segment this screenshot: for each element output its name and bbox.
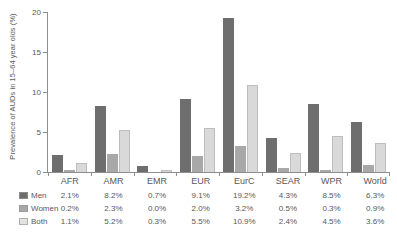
legend-swatch-both-icon (19, 218, 28, 225)
y-axis-tick-label: 10 (32, 88, 41, 97)
y-axis-tick-mark (43, 12, 47, 13)
y-axis-tick-label: 20 (32, 8, 41, 17)
table-body: Men2.1%8.2%0.7%9.1%19.2%4.3%8.5%6.3%Wome… (0, 189, 397, 228)
x-axis-label-eurc: EurC (223, 176, 267, 186)
table-row-cells: 0.2%2.3%0.0%2.0%3.2%0.5%0.3%0.9% (48, 204, 397, 213)
bar-group (262, 12, 305, 172)
bar-both-eurc (247, 85, 258, 172)
legend-label-men: Men (31, 191, 47, 200)
bar-women-wpr (320, 170, 331, 172)
bar-women-world (363, 165, 374, 172)
table-cell-both-afr: 1.1% (48, 217, 92, 226)
bar-both-amr (119, 130, 130, 172)
legend-item-women: Women (0, 204, 48, 213)
bar-group (305, 12, 348, 172)
table-cell-both-wpr: 4.5% (310, 217, 354, 226)
table-cell-men-eur: 9.1% (179, 191, 223, 200)
table-cell-men-amr: 8.2% (92, 191, 136, 200)
bar-both-wpr (332, 136, 343, 172)
table-cell-both-emr: 0.3% (135, 217, 179, 226)
table-cell-women-eurc: 3.2% (223, 204, 267, 213)
table-cell-men-eurc: 19.2% (223, 191, 267, 200)
bar-women-afr (64, 170, 75, 172)
chart-figure: Prevalence of AUDs in 15–64 year olds (%… (0, 0, 397, 244)
table-cell-women-afr: 0.2% (48, 204, 92, 213)
table-cell-men-sear: 4.3% (266, 191, 310, 200)
bar-both-afr (76, 163, 87, 172)
table-row: Men2.1%8.2%0.7%9.1%19.2%4.3%8.5%6.3% (0, 189, 397, 202)
table-cell-men-afr: 2.1% (48, 191, 92, 200)
legend-item-both: Both (0, 217, 48, 226)
table-cell-both-amr: 5.2% (92, 217, 136, 226)
bar-both-world (375, 143, 386, 172)
y-axis-tick-mark (43, 132, 47, 133)
table-row-cells: 2.1%8.2%0.7%9.1%19.2%4.3%8.5%6.3% (48, 191, 397, 200)
bar-men-world (351, 122, 362, 172)
bar-groups (48, 12, 390, 172)
bar-men-amr (95, 106, 106, 172)
table-cell-both-eurc: 10.9% (223, 217, 267, 226)
table-cell-women-amr: 2.3% (92, 204, 136, 213)
x-axis-label-sear: SEAR (266, 176, 310, 186)
bar-group (91, 12, 134, 172)
table-cell-women-emr: 0.0% (135, 204, 179, 213)
bar-group (219, 12, 262, 172)
x-axis-label-amr: AMR (92, 176, 136, 186)
legend-item-men: Men (0, 191, 48, 200)
bar-women-eur (192, 156, 203, 172)
table-cell-women-sear: 0.5% (266, 204, 310, 213)
bar-women-eurc (235, 146, 246, 172)
bar-group (347, 12, 390, 172)
legend-label-both: Both (31, 217, 47, 226)
bar-both-emr (161, 170, 172, 172)
y-axis-tick-label: 15 (32, 48, 41, 57)
bar-men-emr (137, 166, 148, 172)
y-axis-tick-mark (43, 52, 47, 53)
data-table: AFRAMREMREUREurCSEARWPRWorld Men2.1%8.2%… (0, 174, 397, 244)
x-axis-label-afr: AFR (48, 176, 92, 186)
table-cell-women-eur: 2.0% (179, 204, 223, 213)
table-cell-men-wpr: 8.5% (310, 191, 354, 200)
table-cell-both-world: 3.6% (353, 217, 397, 226)
y-axis-tick-label: 5 (37, 128, 41, 137)
y-axis-tick-mark (43, 172, 47, 173)
y-axis-title-container: Prevalence of AUDs in 15–64 year olds (%… (0, 0, 16, 180)
bar-men-sear (266, 138, 277, 172)
table-cell-men-emr: 0.7% (135, 191, 179, 200)
bar-men-wpr (308, 104, 319, 172)
legend-swatch-women-icon (19, 205, 28, 212)
x-axis-label-eur: EUR (179, 176, 223, 186)
x-axis-labels: AFRAMREMREUREurCSEARWPRWorld (48, 176, 397, 186)
bar-women-amr (107, 154, 118, 172)
y-axis-title: Prevalence of AUDs in 15–64 year olds (%… (8, 1, 17, 173)
table-cell-women-world: 0.9% (353, 204, 397, 213)
plot-area: 05101520 (47, 12, 390, 172)
x-axis-label-wpr: WPR (310, 176, 354, 186)
bar-both-sear (290, 153, 301, 172)
bar-both-eur (204, 128, 215, 172)
legend-swatch-men-icon (19, 192, 28, 199)
x-axis-label-row: AFRAMREMREUREurCSEARWPRWorld (0, 174, 397, 188)
table-cell-both-sear: 2.4% (266, 217, 310, 226)
bar-men-eurc (223, 18, 234, 172)
table-row: Women0.2%2.3%0.0%2.0%3.2%0.5%0.3%0.9% (0, 202, 397, 215)
table-row-cells: 1.1%5.2%0.3%5.5%10.9%2.4%4.5%3.6% (48, 217, 397, 226)
x-axis-label-emr: EMR (135, 176, 179, 186)
table-cell-women-wpr: 0.3% (310, 204, 354, 213)
bar-group (48, 12, 91, 172)
bar-men-eur (180, 99, 191, 172)
x-axis-label-world: World (353, 176, 397, 186)
bar-group (134, 12, 177, 172)
table-row: Both1.1%5.2%0.3%5.5%10.9%2.4%4.5%3.6% (0, 215, 397, 228)
bar-men-afr (52, 155, 63, 172)
bar-group (176, 12, 219, 172)
table-cell-both-eur: 5.5% (179, 217, 223, 226)
y-axis-tick-mark (43, 92, 47, 93)
table-cell-men-world: 6.3% (353, 191, 397, 200)
bar-women-sear (278, 168, 289, 172)
